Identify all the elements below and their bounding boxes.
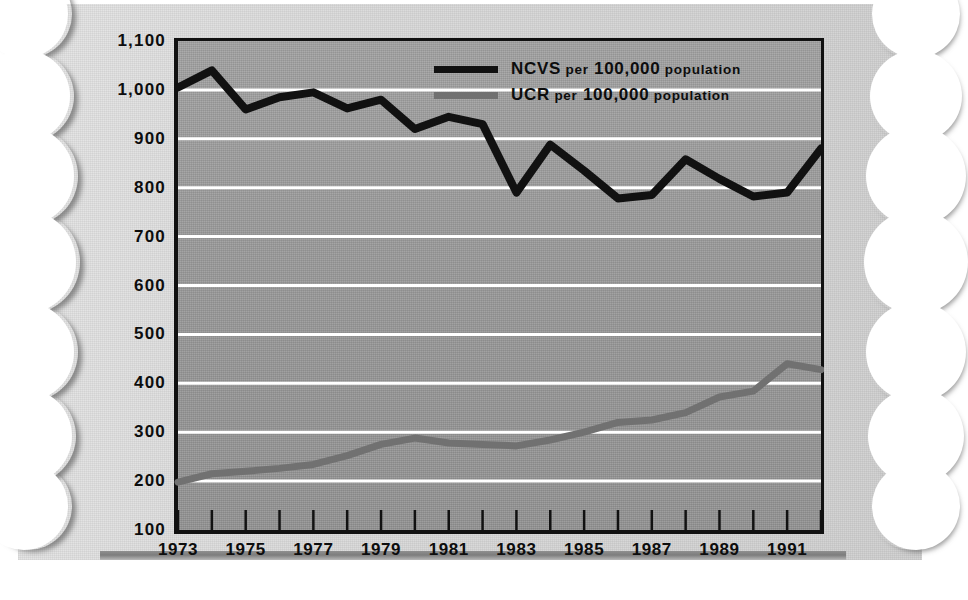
y-axis-tick-label: 300 — [134, 422, 166, 442]
legend-label-ncvs-num: 100,000 — [594, 59, 660, 78]
x-axis-tick-label: 1991 — [767, 540, 807, 560]
y-axis-tick-label: 200 — [134, 471, 166, 491]
y-axis-tick-label: 500 — [134, 324, 166, 344]
chart-svg — [174, 38, 824, 534]
legend-label-ncvs: NCVS per 100,000 population — [511, 59, 741, 79]
legend-label-ucr-main: UCR — [511, 85, 550, 104]
chart-legend: NCVS per 100,000 population UCR per 100,… — [430, 52, 747, 112]
y-axis-labels: 1,1001,000900800700600500400300200100 — [86, 38, 166, 534]
series-line-ucr — [178, 364, 821, 482]
x-axis-tick-label: 1975 — [226, 540, 266, 560]
x-axis-tick-label: 1987 — [632, 540, 672, 560]
y-axis-tick-label: 1,100 — [117, 31, 166, 51]
x-axis-labels: 1973197519771979198119831985198719891991 — [174, 540, 824, 570]
x-axis-tick-label: 1981 — [429, 540, 469, 560]
x-axis-tick-label: 1973 — [158, 540, 198, 560]
legend-label-ucr-pop: population — [654, 88, 730, 103]
y-axis-tick-label: 600 — [134, 276, 166, 296]
y-axis-tick-label: 900 — [134, 129, 166, 149]
plot-area — [174, 38, 824, 534]
x-axis-tick-label: 1977 — [293, 540, 333, 560]
y-axis-tick-label: 1,000 — [117, 80, 166, 100]
legend-label-ncvs-per: per — [566, 62, 589, 77]
x-axis-tick-label: 1983 — [496, 540, 536, 560]
legend-label-ucr: UCR per 100,000 population — [511, 85, 730, 105]
legend-item-ncvs: NCVS per 100,000 population — [434, 56, 741, 82]
x-axis-tick-label: 1979 — [361, 540, 401, 560]
legend-swatch-ucr — [434, 92, 498, 99]
torn-edge-notch — [866, 302, 966, 402]
x-axis-tick-label: 1985 — [564, 540, 604, 560]
legend-item-ucr: UCR per 100,000 population — [434, 82, 741, 108]
legend-label-ncvs-main: NCVS — [511, 59, 561, 78]
legend-label-ncvs-pop: population — [665, 62, 741, 77]
y-axis-tick-label: 100 — [134, 520, 166, 540]
torn-edge-notch — [864, 210, 968, 314]
y-axis-tick-label: 400 — [134, 373, 166, 393]
y-axis-tick-label: 700 — [134, 227, 166, 247]
y-axis-tick-label: 800 — [134, 178, 166, 198]
torn-edge-notch — [872, 462, 960, 550]
legend-swatch-ncvs — [434, 66, 498, 73]
legend-label-ucr-num: 100,000 — [583, 85, 649, 104]
x-axis-tick-label: 1989 — [699, 540, 739, 560]
legend-label-ucr-per: per — [554, 88, 577, 103]
